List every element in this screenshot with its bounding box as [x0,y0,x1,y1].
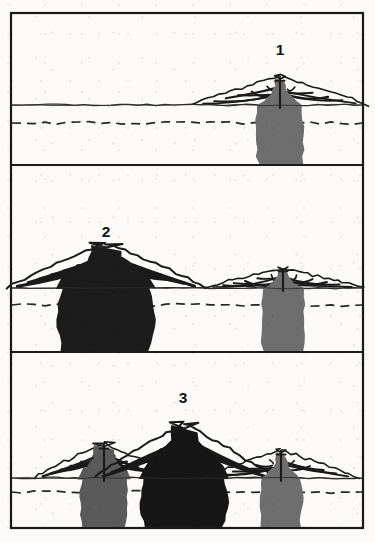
panel-stage-label: 3 [179,389,188,406]
figure-canvas: 123 [0,0,375,542]
panel-stage-label: 1 [276,41,285,58]
volcano-cross-section-figure: 123 [0,0,375,542]
panel-stage-label: 2 [102,223,111,240]
